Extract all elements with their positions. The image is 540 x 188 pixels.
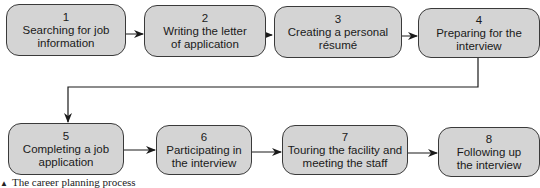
step-2-number: 2	[202, 12, 208, 25]
step-7-label: Touring the facility and meeting the sta…	[288, 144, 402, 170]
step-8-box: 8 Following up the interview	[438, 127, 540, 177]
step-1-box: 1 Searching for job information	[6, 4, 126, 56]
step-4-number: 4	[476, 14, 482, 27]
step-2-label: Writing the letter of application	[163, 25, 247, 51]
step-7-box: 7 Touring the facility and meeting the s…	[282, 125, 408, 175]
step-6-box: 6 Participating in the interview	[156, 125, 252, 175]
step-6-number: 6	[201, 131, 207, 144]
caption-text: The career planning process	[12, 176, 136, 188]
step-3-number: 3	[335, 13, 341, 26]
step-6-label: Participating in the interview	[166, 144, 241, 170]
step-2-box: 2 Writing the letter of application	[144, 5, 266, 57]
step-8-number: 8	[486, 133, 492, 146]
step-7-number: 7	[342, 131, 348, 144]
step-8-label: Following up the interview	[457, 146, 522, 172]
step-3-box: 3 Creating a personal résumé	[274, 6, 402, 58]
step-1-number: 1	[63, 11, 69, 24]
step-3-label: Creating a personal résumé	[288, 26, 388, 52]
step-5-label: Completing a job application	[23, 143, 109, 169]
step-4-label: Preparing for the interview	[436, 27, 522, 53]
step-4-box: 4 Preparing for the interview	[418, 8, 540, 58]
step-5-number: 5	[63, 130, 69, 143]
step-1-label: Searching for job information	[23, 24, 110, 50]
arrow-4-to-5	[68, 57, 478, 122]
figure-caption: ▲The career planning process	[0, 176, 136, 188]
caption-triangle-icon: ▲	[0, 179, 8, 188]
step-5-box: 5 Completing a job application	[8, 123, 124, 175]
